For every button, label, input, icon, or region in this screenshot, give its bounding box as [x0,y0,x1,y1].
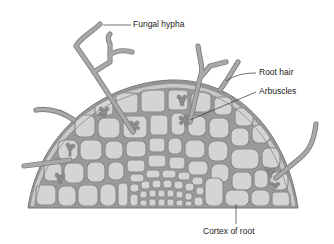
label-root-hair: Root hair [259,68,294,77]
label-arbuscles: Arbuscles [259,87,296,96]
label-fungal-hypha: Fungal hypha [133,20,185,29]
label-cortex-of-root: Cortex of root [203,227,255,236]
root-cross-section-diagram [0,0,334,244]
